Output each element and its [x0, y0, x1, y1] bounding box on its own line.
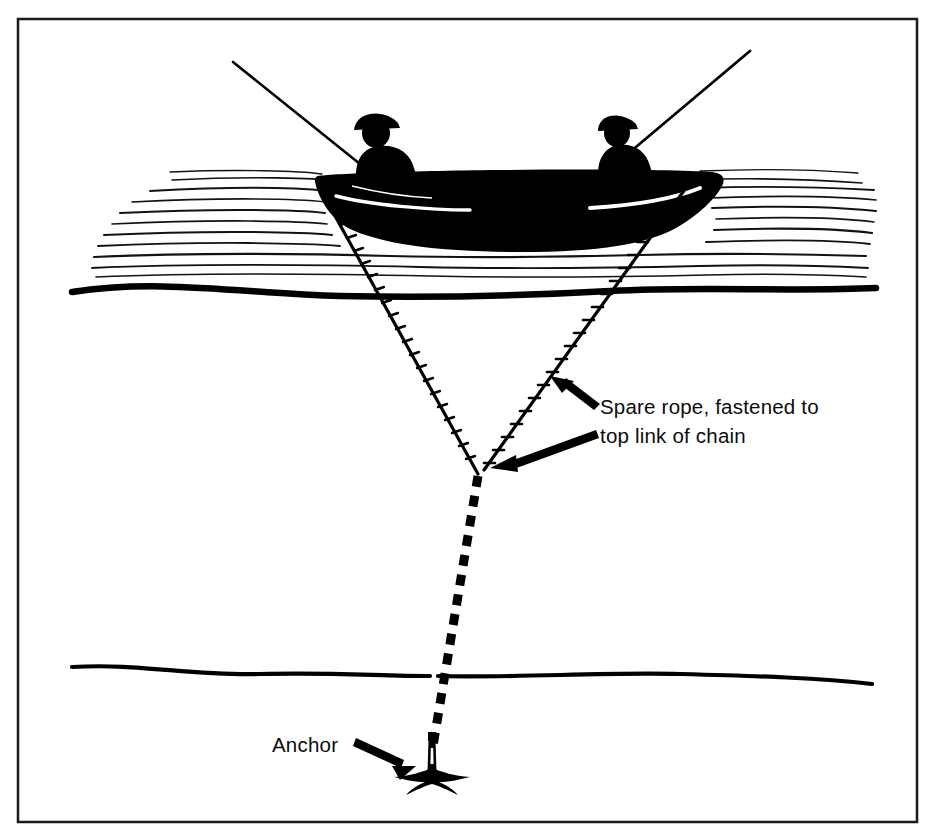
anchor-label: Anchor — [272, 733, 338, 756]
anchor-chain — [432, 476, 478, 752]
diagram-canvas: Spare rope, fastened to top link of chai… — [0, 0, 931, 838]
arrow-to-spare-rope — [550, 376, 600, 410]
seabed-line — [72, 666, 872, 684]
figure-frame — [18, 19, 917, 822]
rowboat-silhouette — [315, 170, 724, 252]
arrow-to-anchor — [353, 738, 416, 780]
angler-right — [598, 115, 652, 176]
anchor-grapnel — [394, 732, 470, 795]
anchoring-diagram: Spare rope, fastened to top link of chai… — [0, 0, 931, 838]
spare-rope-label-line-1: Spare rope, fastened to — [600, 395, 819, 418]
fishing-rod-left — [233, 62, 360, 164]
spare-rope-label-line-2: top link of chain — [600, 424, 746, 447]
waterline — [72, 286, 876, 296]
angler-left — [354, 113, 416, 178]
fishing-rod-right — [630, 51, 750, 152]
